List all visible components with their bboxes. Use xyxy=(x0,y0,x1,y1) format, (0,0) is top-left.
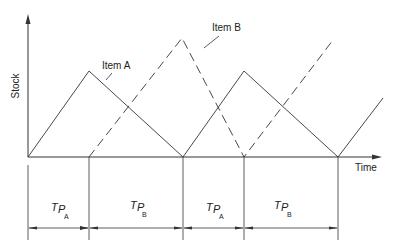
period-boundaries xyxy=(28,157,338,240)
x-axis-arrow-icon xyxy=(372,155,382,160)
label-item-a: Item A xyxy=(102,60,131,71)
svg-text:B: B xyxy=(142,211,147,218)
leader-item-b xyxy=(204,36,219,48)
inventory-diagram: Stock Time Item A Item B T P A xyxy=(0,0,395,250)
series-item-b xyxy=(89,38,333,157)
leader-item-a xyxy=(106,73,112,80)
x-axis-label: Time xyxy=(355,162,377,173)
svg-text:A: A xyxy=(64,213,69,220)
period-label-2: T P B xyxy=(130,199,147,218)
svg-text:A: A xyxy=(219,213,224,220)
period-label-4: T P B xyxy=(274,199,292,218)
period-label-3: T P A xyxy=(206,201,224,220)
y-axis-arrow-icon xyxy=(26,14,31,24)
period-label-1: T P A xyxy=(51,201,69,220)
label-item-b: Item B xyxy=(212,22,241,33)
y-axis-label: Stock xyxy=(10,72,21,98)
svg-text:B: B xyxy=(287,211,292,218)
